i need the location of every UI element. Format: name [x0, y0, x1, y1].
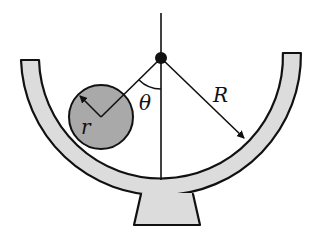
- bowl-diagram: r θ R: [0, 0, 309, 239]
- large-radius-arrow: [161, 58, 244, 138]
- label-large-radius: R: [212, 83, 228, 107]
- label-angle: θ: [139, 91, 151, 115]
- angle-arc: [139, 80, 161, 89]
- label-small-radius: r: [81, 115, 92, 139]
- pivot-point: [155, 52, 167, 64]
- bowl-base: [134, 194, 200, 225]
